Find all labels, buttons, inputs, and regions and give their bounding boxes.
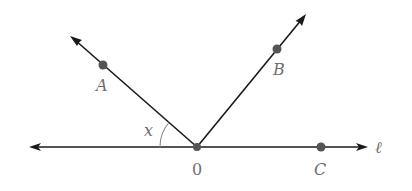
point-a bbox=[99, 61, 108, 70]
point-o bbox=[193, 143, 201, 151]
point-c bbox=[317, 143, 326, 152]
geometry-diagram: A B C 0 x ℓ bbox=[0, 0, 412, 191]
label-b: B bbox=[272, 60, 285, 79]
ray-oa bbox=[70, 36, 197, 147]
label-a: A bbox=[94, 76, 108, 95]
point-b bbox=[273, 45, 282, 54]
label-line-l: ℓ bbox=[375, 138, 382, 157]
label-angle-x: x bbox=[144, 121, 153, 140]
label-o: 0 bbox=[192, 160, 202, 179]
angle-x-arc bbox=[160, 123, 169, 148]
label-c: C bbox=[314, 160, 326, 179]
ray-ob bbox=[197, 14, 306, 147]
